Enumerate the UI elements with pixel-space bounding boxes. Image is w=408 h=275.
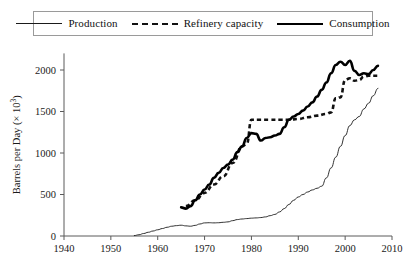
x-tick-label: 1980	[241, 243, 262, 254]
y-axis-title: Barrels per Day (× 103)	[9, 95, 24, 194]
x-tick-label: 2010	[382, 243, 403, 254]
x-tick-label: 1990	[288, 243, 309, 254]
y-tick-label: 0	[51, 231, 56, 242]
x-tick-label: 1940	[54, 243, 75, 254]
x-tick-label: 1970	[194, 243, 215, 254]
chart-axes	[60, 53, 392, 240]
y-axis-label: Barrels per Day (× 103)	[9, 95, 24, 194]
chart-svg: 0500100015002000 19401950196019701980199…	[0, 0, 408, 275]
y-tick-label: 1500	[35, 106, 56, 117]
y-tick-label: 500	[40, 189, 56, 200]
x-tick-labels: 19401950196019701980199020002010	[54, 243, 403, 254]
x-tick-label: 2000	[335, 243, 356, 254]
x-tick-label: 1960	[147, 243, 168, 254]
series-line-refinery-capacity	[186, 76, 378, 206]
y-tick-label: 2000	[35, 65, 56, 76]
chart-plot-area: 0500100015002000 19401950196019701980199…	[0, 0, 408, 275]
y-tick-label: 1000	[35, 148, 56, 159]
chart-series-layer	[134, 61, 378, 236]
y-tick-labels: 0500100015002000	[35, 65, 56, 242]
chart-figure: Production Refinery capacity Consumption…	[0, 0, 408, 275]
x-tick-label: 1950	[100, 243, 121, 254]
series-line-production	[134, 88, 378, 235]
